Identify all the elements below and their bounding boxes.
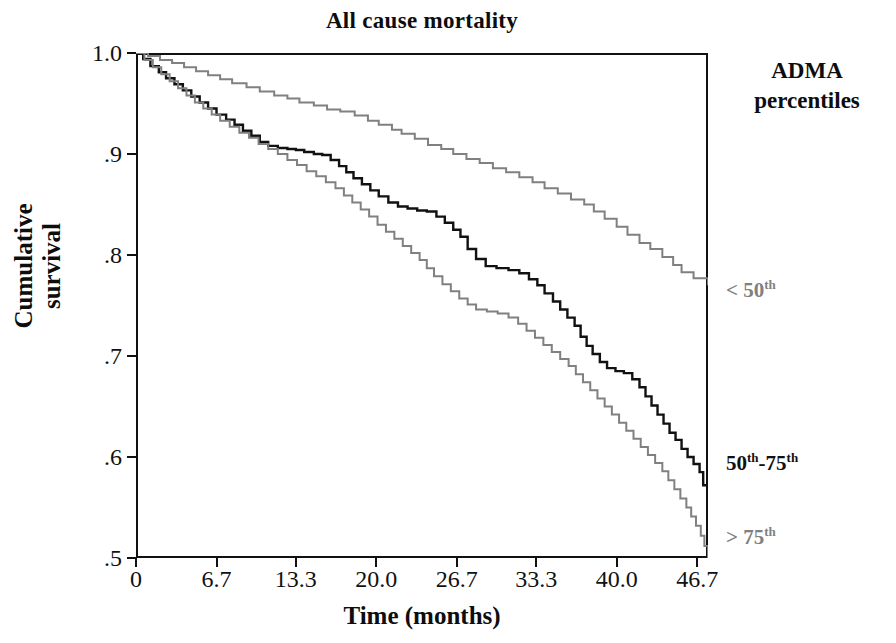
y-tick-mark [127, 153, 136, 155]
y-tick-label: .7 [62, 343, 122, 370]
y-tick-mark [127, 456, 136, 458]
x-tick-label: 20.0 [331, 566, 421, 593]
y-tick-label: .6 [62, 444, 122, 471]
y-tick-mark [127, 52, 136, 54]
legend-label-superscript: th [764, 524, 776, 539]
x-tick-mark [135, 558, 137, 567]
x-tick-label: 6.7 [172, 566, 262, 593]
survival-curve [136, 53, 708, 285]
y-tick-mark [127, 355, 136, 357]
x-tick-mark [216, 558, 218, 567]
survival-curve [136, 53, 708, 558]
x-tick-mark [295, 558, 297, 567]
x-tick-label: 26.7 [412, 566, 502, 593]
legend-entry: 50th-75th [726, 450, 896, 476]
y-tick-label: 1.0 [62, 40, 122, 67]
chart-root: All cause mortality Cumulative survival … [0, 0, 896, 643]
x-tick-label: 0 [91, 566, 181, 593]
legend-entry: < 50th [726, 277, 896, 303]
x-tick-label: 40.0 [572, 566, 662, 593]
x-tick-mark [616, 558, 618, 567]
x-tick-mark [375, 558, 377, 567]
y-tick-mark [127, 254, 136, 256]
legend-label-superscript-2: th [787, 450, 799, 465]
legend-entry: > 75th [726, 524, 896, 550]
legend-title: ADMA percentiles [718, 56, 896, 116]
legend-label-superscript: th [747, 450, 759, 465]
x-tick-mark [696, 558, 698, 567]
legend-label-superscript: th [764, 277, 776, 292]
x-tick-mark [535, 558, 537, 567]
x-tick-label: 13.3 [251, 566, 341, 593]
y-tick-label: .9 [62, 141, 122, 168]
legend-title-line2: percentiles [718, 86, 896, 116]
survival-curves [136, 53, 708, 558]
y-axis-title: Cumulative survival [10, 166, 66, 366]
legend-label-text: > 75 [726, 525, 764, 549]
x-tick-mark [456, 558, 458, 567]
legend-label-text-2: -75 [759, 451, 787, 475]
legend-label-text: 50 [726, 451, 747, 475]
y-tick-label: .8 [62, 242, 122, 269]
legend-title-line1: ADMA [718, 56, 896, 86]
x-tick-label: 33.3 [491, 566, 581, 593]
legend-label-text: < 50 [726, 278, 764, 302]
page-title: All cause mortality [136, 8, 708, 34]
x-axis-title: Time (months) [136, 602, 708, 630]
x-tick-label: 46.7 [652, 566, 742, 593]
